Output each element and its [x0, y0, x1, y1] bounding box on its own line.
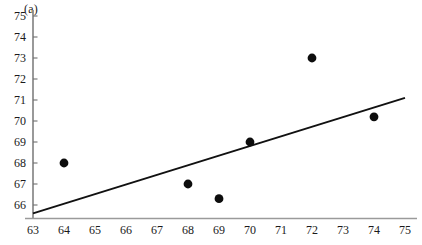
data-point — [308, 54, 317, 63]
x-axis-tick-label: 72 — [306, 223, 318, 237]
data-point — [246, 138, 255, 147]
data-points-group — [60, 54, 379, 204]
scatter-plot: 66676869707172737475 6364656667686970717… — [0, 0, 422, 245]
x-axis-tick-label: 65 — [89, 223, 101, 237]
x-axis-tick-label: 75 — [399, 223, 411, 237]
x-axis-tick-label: 73 — [337, 223, 349, 237]
y-axis-tick-label: 69 — [14, 135, 26, 149]
y-axis-tick-label: 68 — [14, 156, 26, 170]
y-axis-tick-label: 66 — [14, 198, 26, 212]
y-axis: 66676869707172737475 — [14, 9, 38, 218]
figure-panel: (a) 66676869707172737475 636465666768697… — [0, 0, 422, 245]
x-axis-tick-label: 68 — [182, 223, 194, 237]
x-axis: 63646566676869707172737475 — [25, 219, 417, 238]
x-axis-tick-label: 67 — [151, 223, 163, 237]
data-point — [184, 180, 193, 189]
data-point — [60, 159, 69, 168]
x-axis-tick-label: 74 — [368, 223, 380, 237]
x-axis-tick-label: 69 — [213, 223, 225, 237]
y-axis-tick-label: 75 — [14, 9, 26, 23]
y-axis-tick-label: 72 — [14, 72, 26, 86]
x-axis-tick-label: 71 — [275, 223, 287, 237]
x-axis-tick-label: 63 — [27, 223, 39, 237]
y-axis-tick-label: 73 — [14, 51, 26, 65]
data-point — [215, 194, 224, 203]
y-axis-tick-label: 71 — [14, 93, 26, 107]
x-axis-tick-label: 70 — [244, 223, 256, 237]
y-axis-tick-label: 70 — [14, 114, 26, 128]
x-axis-tick-label: 66 — [120, 223, 132, 237]
x-axis-tick-label: 64 — [58, 223, 70, 237]
y-axis-tick-label: 67 — [14, 177, 26, 191]
data-point — [370, 112, 379, 121]
y-axis-tick-label: 74 — [14, 30, 26, 44]
